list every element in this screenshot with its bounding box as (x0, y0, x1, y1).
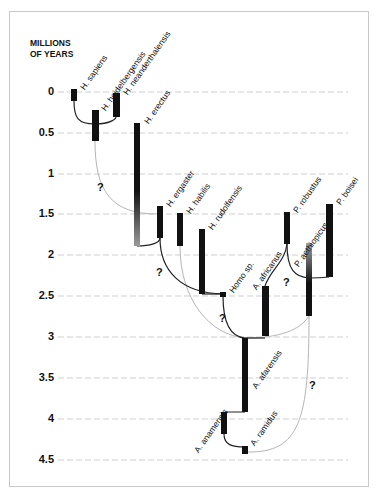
question-mark: ? (156, 266, 163, 278)
phylogeny-tree (0, 0, 378, 498)
question-mark: ? (97, 181, 104, 193)
question-mark: ? (283, 276, 290, 288)
question-mark: ? (219, 312, 226, 324)
question-mark: ? (309, 379, 316, 391)
